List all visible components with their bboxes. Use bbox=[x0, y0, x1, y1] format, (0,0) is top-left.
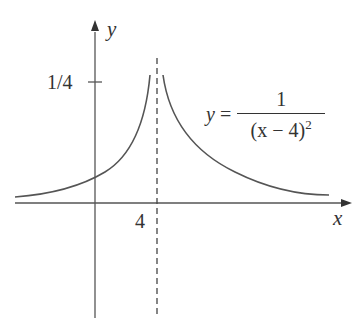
x-axis-label: x bbox=[333, 208, 342, 229]
equation-lhs: y = bbox=[206, 103, 231, 126]
equation-denominator: (x − 4)2 bbox=[251, 114, 312, 142]
function-annotation: y = 1 (x − 4)2 bbox=[206, 88, 325, 142]
curve-left-branch bbox=[15, 75, 150, 197]
y-axis-arrow-icon bbox=[91, 20, 99, 31]
denominator-base: (x − 4) bbox=[251, 119, 306, 141]
y-tick-label: 1/4 bbox=[47, 72, 73, 92]
x-axis-arrow-icon bbox=[341, 199, 352, 207]
y-axis-label: y bbox=[107, 19, 116, 40]
equation-fraction: 1 (x − 4)2 bbox=[237, 88, 325, 142]
equation-numerator: 1 bbox=[276, 88, 286, 113]
x-tick-label: 4 bbox=[135, 211, 145, 231]
plot-canvas bbox=[0, 0, 359, 323]
denominator-exponent: 2 bbox=[305, 117, 312, 132]
